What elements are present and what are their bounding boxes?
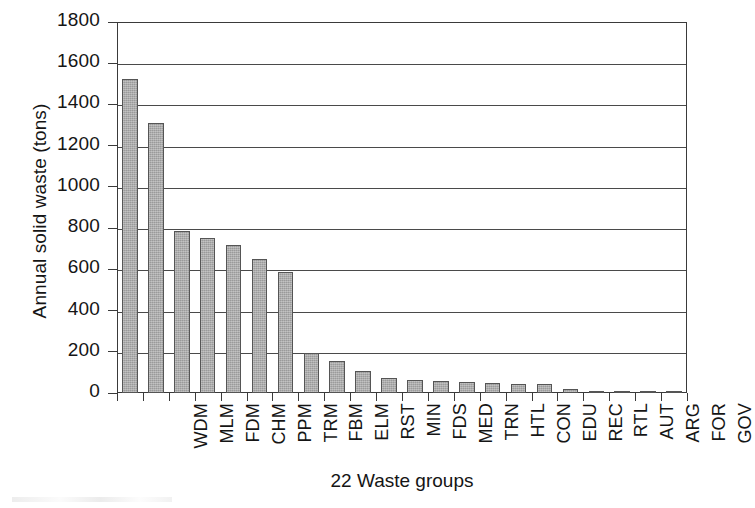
- bar-wdm: [122, 79, 138, 393]
- x-tick-label-trm: TRM: [322, 403, 340, 467]
- y-tick-mark: [108, 351, 117, 352]
- x-tick-label-ppm: PPM: [296, 403, 314, 467]
- x-axis-tick: [247, 393, 248, 401]
- x-axis-tick: [376, 393, 377, 401]
- x-tick-label-chm: CHM: [270, 403, 288, 467]
- x-axis-tick: [402, 393, 403, 401]
- y-tick-label: 1800: [57, 9, 100, 31]
- x-tick-label-min: MIN: [425, 403, 443, 467]
- x-tick-label-edu: EDU: [581, 403, 599, 467]
- bar-trm: [252, 259, 268, 393]
- x-tick-label-mlm: MLM: [218, 403, 236, 467]
- x-axis-tick: [506, 393, 507, 401]
- x-axis-tick: [635, 393, 636, 401]
- y-axis-title: Annual solid waste (tons): [29, 51, 51, 371]
- y-tick-mark: [108, 269, 117, 270]
- x-axis-tick: [143, 393, 144, 401]
- y-tick-mark: [108, 310, 117, 311]
- y-tick-mark: [108, 63, 117, 64]
- x-tick-label-for: FOR: [710, 403, 728, 467]
- bar-series: [117, 22, 687, 393]
- x-tick-label-gov: GOV: [736, 403, 754, 467]
- x-axis-tick: [557, 393, 558, 401]
- y-tick-label: 1600: [57, 50, 100, 72]
- y-tick-label: 0: [89, 380, 100, 402]
- y-tick-label: 1400: [57, 91, 100, 113]
- y-tick-label: 600: [68, 256, 100, 278]
- y-tick-mark: [108, 22, 117, 23]
- bar-med: [407, 380, 423, 393]
- bar-fbm: [278, 272, 294, 393]
- y-tick-mark: [108, 145, 117, 146]
- bar-chm: [200, 238, 216, 393]
- bar-ppm: [226, 245, 242, 393]
- x-axis-tick: [350, 393, 351, 401]
- y-tick-mark: [108, 228, 117, 229]
- x-tick-label-rtl: RTL: [632, 403, 650, 467]
- x-tick-label-htl: HTL: [529, 403, 547, 467]
- bar-trn: [433, 381, 449, 393]
- x-axis-tick: [532, 393, 533, 401]
- x-tick-label-elm: ELM: [373, 403, 391, 467]
- x-axis-tick: [480, 393, 481, 401]
- bar-fdm: [174, 231, 190, 393]
- y-tick-mark: [108, 104, 117, 105]
- x-axis-tick-labels: WDMMLMFDMCHMPPMTRMFBMELMRSTMINFDSMEDTRNH…: [117, 403, 687, 463]
- bar-rec: [537, 384, 553, 393]
- y-tick-label: 800: [68, 215, 100, 237]
- x-axis-tick: [324, 393, 325, 401]
- x-tick-label-rec: REC: [607, 403, 625, 467]
- y-tick-label: 1000: [57, 174, 100, 196]
- y-tick-label: 400: [68, 298, 100, 320]
- x-axis-tick: [117, 393, 118, 401]
- x-axis-tick: [428, 393, 429, 401]
- x-axis-tick: [169, 393, 170, 401]
- y-tick-label: 200: [68, 339, 100, 361]
- x-axis-tick: [687, 393, 688, 401]
- x-tick-label-med: MED: [477, 403, 495, 467]
- bar-htl: [459, 382, 475, 393]
- x-axis-tick: [195, 393, 196, 401]
- x-tick-label-trn: TRN: [503, 403, 521, 467]
- y-tick-mark: [108, 186, 117, 187]
- x-axis-tick: [661, 393, 662, 401]
- scan-artifact: [12, 497, 172, 502]
- bar-rst: [329, 361, 345, 393]
- x-tick-label-con: CON: [555, 403, 573, 467]
- x-axis-tick: [609, 393, 610, 401]
- bar-con: [485, 383, 501, 393]
- x-axis-tick: [298, 393, 299, 401]
- x-axis-tick: [583, 393, 584, 401]
- y-tick-mark: [108, 393, 117, 394]
- x-tick-label-rst: RST: [399, 403, 417, 467]
- bar-mlm: [148, 123, 164, 393]
- bar-fds: [381, 378, 397, 393]
- x-tick-label-fds: FDS: [451, 403, 469, 467]
- bar-min: [355, 371, 371, 393]
- x-axis-tick: [221, 393, 222, 401]
- x-tick-label-arg: ARG: [684, 403, 702, 467]
- x-tick-label-wdm: WDM: [192, 403, 210, 467]
- y-tick-label: 1200: [57, 133, 100, 155]
- x-tick-label-aut: AUT: [658, 403, 676, 467]
- bar-edu: [511, 384, 527, 393]
- x-axis-ticks: [117, 393, 687, 403]
- x-axis-tick: [272, 393, 273, 401]
- x-axis-tick: [454, 393, 455, 401]
- x-tick-label-fdm: FDM: [244, 403, 262, 467]
- x-tick-label-fbm: FBM: [347, 403, 365, 467]
- bar-elm: [304, 353, 320, 393]
- x-axis-title: 22 Waste groups: [117, 470, 687, 492]
